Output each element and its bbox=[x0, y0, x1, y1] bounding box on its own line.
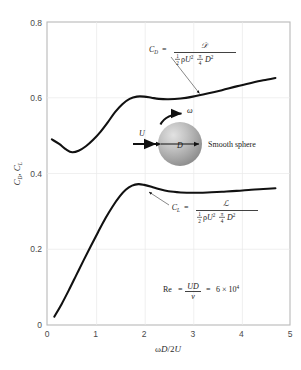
svg-text:π: π bbox=[199, 53, 202, 59]
svg-text:π: π bbox=[221, 211, 224, 217]
reynolds-value: 6 × 104 bbox=[216, 284, 240, 294]
svg-text:2: 2 bbox=[176, 60, 179, 66]
svg-text:1: 1 bbox=[198, 211, 201, 217]
diameter-label: D bbox=[176, 141, 183, 150]
svg-text:1: 1 bbox=[176, 53, 179, 59]
drag-equals: = bbox=[162, 45, 167, 54]
chart-figure: 0 0.2 0.4 0.6 0.8 CD, CL 0 1 2 3 4 5 ωD/… bbox=[0, 0, 301, 370]
x-tick-2: 2 bbox=[142, 329, 147, 339]
reynolds-numerator: UD bbox=[187, 282, 199, 291]
y-tick-3: 0.6 bbox=[30, 93, 42, 103]
x-tick-0: 0 bbox=[45, 329, 50, 339]
x-axis-label: ωD/2U bbox=[155, 344, 181, 354]
reynolds-equals-1: = bbox=[178, 285, 183, 294]
x-tick-3: 3 bbox=[190, 329, 195, 339]
svg-text:2: 2 bbox=[198, 218, 201, 224]
svg-text:CD, CL: CD, CL bbox=[12, 162, 23, 185]
reynolds-equals-2: = bbox=[206, 285, 211, 294]
reynolds-symbol: Re bbox=[163, 285, 172, 294]
omega-label: ω bbox=[187, 106, 193, 115]
reynolds-denominator: ν bbox=[191, 292, 195, 301]
sphere-caption: Smooth sphere bbox=[208, 140, 256, 149]
lift-equals: = bbox=[184, 203, 189, 212]
x-tick-4: 4 bbox=[239, 329, 244, 339]
y-tick-0: 0 bbox=[37, 320, 42, 330]
y-tick-1: 0.2 bbox=[30, 244, 42, 254]
svg-text:ωD/2U: ωD/2U bbox=[155, 344, 181, 354]
x-tick-1: 1 bbox=[93, 329, 98, 339]
svg-text:4: 4 bbox=[199, 60, 202, 66]
y-tick-4: 0.8 bbox=[30, 18, 42, 28]
y-tick-2: 0.4 bbox=[30, 169, 42, 179]
lift-numerator: ℒ bbox=[223, 199, 229, 208]
y-axis-label: CD, CL bbox=[12, 162, 23, 185]
x-tick-5: 5 bbox=[288, 329, 293, 339]
svg-text:4: 4 bbox=[221, 218, 224, 224]
